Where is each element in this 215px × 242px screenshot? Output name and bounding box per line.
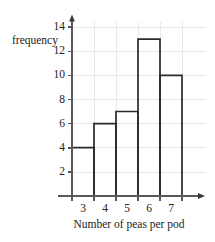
y-tick-label-14: 14 (54, 20, 66, 32)
x-axis-title: Number of peas per pod (73, 218, 184, 231)
chart-container: 14 12 10 8 6 4 2 frequency 3 4 5 6 7 (0, 0, 215, 242)
x-tick-label-3: 3 (80, 202, 86, 214)
bar-series (72, 39, 182, 196)
y-tick-label-8: 8 (59, 93, 65, 105)
x-tick-label-4: 4 (102, 202, 108, 214)
bar-5 (116, 112, 138, 197)
x-tick-label-7: 7 (168, 202, 174, 214)
y-tick-label-4: 4 (59, 141, 65, 153)
bar-6 (138, 39, 160, 196)
horizontal-gridlines (72, 27, 206, 172)
y-tick-label-12: 12 (54, 44, 66, 56)
x-tick-label-6: 6 (146, 202, 152, 214)
y-tick-label-6: 6 (59, 117, 65, 129)
y-axis (68, 15, 75, 197)
y-tick-label-10: 10 (54, 68, 66, 80)
y-axis-title: frequency (12, 34, 58, 47)
x-tick-label-5: 5 (124, 202, 130, 214)
histogram-chart: 14 12 10 8 6 4 2 frequency 3 4 5 6 7 (0, 0, 215, 242)
bar-4 (94, 124, 116, 196)
bar-7 (160, 75, 182, 196)
x-axis-arrow-icon (198, 193, 205, 199)
x-axis (58, 193, 205, 201)
x-tick-labels: 3 4 5 6 7 (80, 202, 174, 214)
y-axis-arrow-icon (69, 15, 75, 22)
y-tick-label-2: 2 (59, 165, 65, 177)
